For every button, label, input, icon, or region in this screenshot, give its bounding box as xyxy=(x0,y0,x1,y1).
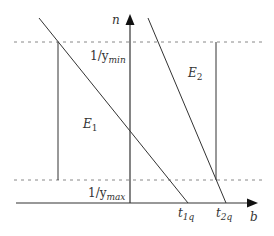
diagram-canvas: n b 1/ymin 1/ymax E1 E2 t1q t2q xyxy=(0,0,274,236)
x-axis-label: b xyxy=(250,210,258,224)
region-e2-label: E2 xyxy=(187,66,203,82)
upper-level-label: 1/ymin xyxy=(90,49,126,65)
y-axis-label: n xyxy=(112,13,120,27)
region-e1-label: E1 xyxy=(82,117,98,133)
lower-level-label: 1/ymax xyxy=(88,186,125,202)
line-t1q xyxy=(39,18,188,203)
tick-t2q-label: t2q xyxy=(216,206,233,222)
tick-t1q-label: t1q xyxy=(178,206,195,222)
line-t2q xyxy=(148,18,226,203)
y-axis-arrow-icon xyxy=(126,14,135,25)
x-axis-arrow-icon xyxy=(247,199,258,208)
